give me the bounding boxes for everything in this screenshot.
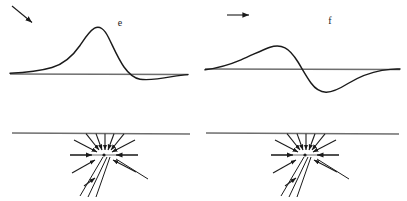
panel-f-field-line-d2 (314, 160, 337, 172)
convergent-field-diagram-e (12, 133, 190, 197)
panel-e-field-line-d2 (113, 160, 136, 172)
panel-e-direction-arrow (12, 6, 32, 23)
panel-f-field-line-ul (275, 140, 298, 152)
scientific-figure-svg: e f (0, 0, 407, 201)
panel-label-e: e (118, 17, 123, 28)
panel-e-convergence-point (102, 153, 105, 156)
panel-f-streamer-3 (297, 157, 311, 197)
panel-e-field-line-d1 (72, 160, 95, 173)
panel-f-boundary-line (206, 133, 399, 134)
panel-f-convergence-point (303, 153, 306, 156)
convergent-field-diagram-f (206, 133, 399, 197)
panel-e-streamer-3 (96, 157, 110, 197)
diagonal-down-right-arrow (12, 6, 32, 23)
panel-f-field-line-d1 (273, 160, 296, 173)
unipolar-peak-curve (10, 27, 188, 79)
panel-e-field-line-d3 (116, 159, 148, 179)
figure-root: e f (0, 0, 407, 201)
panel-f-field-line-d3 (317, 159, 349, 179)
panel-e-baseline (10, 74, 188, 75)
panel-f-field-line-ur (313, 140, 336, 152)
panel-e-boundary-line (12, 133, 190, 134)
panel-e-field-line-ur (112, 140, 135, 152)
panel-e-field-line-ul (74, 140, 97, 152)
panel-label-f: f (328, 15, 332, 26)
